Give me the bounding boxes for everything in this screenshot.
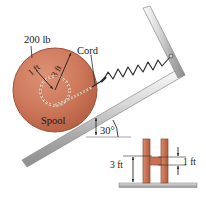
spring-coils	[104, 60, 162, 79]
detail-hub-width-label: 1 ft	[183, 157, 196, 167]
spring-anchor-pin	[169, 54, 173, 58]
spring	[104, 54, 173, 79]
detail-right-flange	[161, 139, 168, 183]
wall-bar	[143, 6, 185, 78]
detail-hub	[150, 157, 161, 165]
spool-incline-figure: 200 lb Cord Spool 1 ft 3 ft 30° 3 ft	[0, 0, 206, 200]
detail-height-label: 3 ft	[110, 160, 123, 170]
incline-angle-label: 30°	[100, 125, 115, 136]
figure-canvas: 200 lb Cord Spool 1 ft 3 ft 30° 3 ft	[0, 0, 206, 200]
cord-label: Cord	[77, 45, 99, 56]
spool-label: Spool	[41, 115, 66, 126]
spool-side-view-detail: 3 ft 1 ft	[110, 139, 197, 188]
weight-label: 200 lb	[24, 34, 51, 45]
spring-anchor-line	[162, 57, 170, 66]
detail-left-flange	[143, 139, 150, 183]
wall-bracket	[143, 6, 185, 78]
detail-ground	[119, 183, 197, 188]
